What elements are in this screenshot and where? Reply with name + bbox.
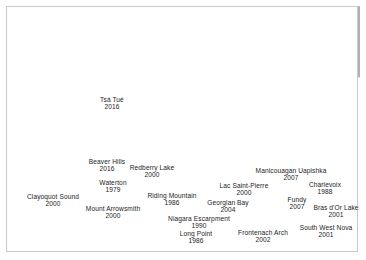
reserve-name: Charlevoix: [309, 181, 341, 188]
reserve-name: Long Point: [180, 230, 213, 237]
reserve-year: 2016: [89, 165, 125, 172]
reserve-name: South West Nova: [300, 224, 353, 231]
map-label-redberry-lake: Redberry Lake 2000: [130, 164, 175, 179]
reserve-year: 2001: [300, 231, 353, 238]
map-label-frontenach-arch: Frontenach Arch 2002: [238, 229, 288, 244]
map-label-bras-dor-lake: Bras d'Or Lake 2001: [313, 204, 358, 219]
map-label-tsa-tue: Tsá Tué 2016: [100, 96, 124, 111]
reserve-name: Georgian Bay: [207, 199, 249, 206]
reserve-year: 1979: [99, 186, 126, 193]
reserve-year: 1990: [168, 222, 230, 229]
reserve-name: Waterton: [99, 179, 126, 186]
reserve-name: Bras d'Or Lake: [313, 204, 358, 211]
map-label-clayoquot-sound: Clayoquot Sound 2000: [27, 193, 79, 208]
reserve-year: 1988: [309, 188, 341, 195]
reserve-year: 2002: [238, 236, 288, 243]
map-label-fundy: Fundy 2007: [288, 196, 307, 211]
map-label-niagara-escarpment: Niagara Escarpment 1990: [168, 215, 230, 230]
reserve-year: 2004: [207, 206, 249, 213]
reserve-year: 1986: [180, 237, 213, 244]
reserve-year: 2007: [288, 203, 307, 210]
reserve-name: Beaver Hills: [89, 158, 125, 165]
reserve-name: Lac Saint-Pierre: [220, 182, 269, 189]
map-label-waterton: Waterton 1979: [99, 179, 126, 194]
map-label-mount-arrowsmith: Mount Arrowsmith 2000: [86, 205, 140, 220]
reserve-name: Clayoquot Sound: [27, 193, 79, 200]
reserve-name: Riding Mountain: [147, 192, 196, 199]
reserve-name: Fundy: [288, 196, 307, 203]
reserve-year: 1986: [147, 199, 196, 206]
map-label-riding-mountain: Riding Mountain 1986: [147, 192, 196, 207]
reserve-name: Manicouagan Uapishka: [256, 167, 327, 174]
reserve-name: Redberry Lake: [130, 164, 175, 171]
map-label-lac-saint-pierre: Lac Saint-Pierre 2000: [220, 182, 269, 197]
map-label-beaver-hills: Beaver Hills 2016: [89, 158, 125, 173]
reserve-name: Mount Arrowsmith: [86, 205, 140, 212]
map-label-long-point: Long Point 1986: [180, 230, 213, 245]
reserve-year: 2000: [27, 200, 79, 207]
map-label-south-west-nova: South West Nova 2001: [300, 224, 353, 239]
map-label-georgian-bay: Georgian Bay 2004: [207, 199, 249, 214]
reserve-year: 2001: [313, 211, 358, 218]
reserve-year: 2016: [100, 103, 124, 110]
reserve-name: Tsá Tué: [100, 96, 124, 103]
reserve-name: Frontenach Arch: [238, 229, 288, 236]
reserve-year: 2000: [130, 171, 175, 178]
map-label-charlevoix: Charlevoix 1988: [309, 181, 341, 196]
map-label-manicouagan-uapishka: Manicouagan Uapishka 2007: [256, 167, 327, 182]
biosphere-reserves-map-figure: Tsá Tué 2016 Beaver Hills 2016 Redberry …: [0, 0, 366, 260]
reserve-year: 2000: [220, 189, 269, 196]
reserve-year: 2000: [86, 212, 140, 219]
reserve-name: Niagara Escarpment: [168, 215, 230, 222]
